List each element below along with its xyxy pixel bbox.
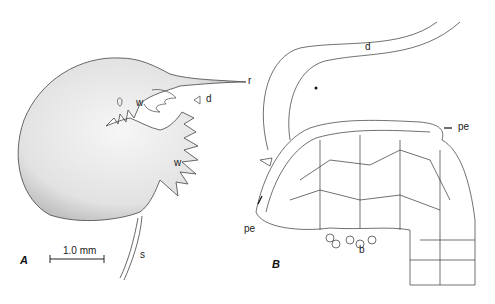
label-b: b [359,245,365,255]
tissue-section [256,22,475,285]
label-s: s [140,250,145,260]
label-w-lower: w [174,158,181,168]
label-pe-left: pe [244,224,255,234]
label-d-a: d [206,94,212,104]
label-d-b: d [365,42,371,52]
panel-letter-a: A [20,254,28,266]
scale-bar-label: 1.0 mm [63,246,96,256]
trap-body [18,58,246,280]
figure-drawing [0,0,495,304]
label-w-upper: w [136,98,143,108]
label-r: r [248,76,251,86]
panel-letter-b: B [272,258,280,270]
label-pe-right: pe [458,122,469,132]
